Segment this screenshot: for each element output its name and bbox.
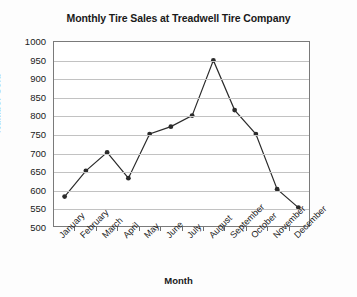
data-point: June: 770	[168, 124, 173, 129]
data-point: September: 815	[232, 108, 237, 113]
y-tick-label: 950	[0, 54, 46, 65]
gridline	[54, 172, 309, 173]
y-tick-label: 900	[0, 73, 46, 84]
gridline	[54, 191, 309, 192]
gridline	[54, 116, 309, 117]
y-tick-label: 550	[0, 203, 46, 214]
data-point: January: 580	[62, 194, 67, 199]
chart-title: Monthly Tire Sales at Treadwell Tire Com…	[0, 12, 357, 24]
data-point: April: 630	[126, 176, 131, 181]
line-series: January: 580February: 650March: 700April…	[54, 42, 309, 226]
y-tick-label: 750	[0, 129, 46, 140]
y-tick-label: 700	[0, 147, 46, 158]
x-axis-label: Month	[0, 275, 357, 286]
y-tick-label: 800	[0, 110, 46, 121]
y-tick-label: 650	[0, 166, 46, 177]
y-tick-label: 850	[0, 91, 46, 102]
gridline	[54, 61, 309, 62]
y-tick-label: 500	[0, 222, 46, 233]
gridline	[54, 135, 309, 136]
gridline	[54, 98, 309, 99]
chart-figure: Monthly Tire Sales at Treadwell Tire Com…	[0, 0, 357, 297]
y-tick-label: 1000	[0, 36, 46, 47]
gridline	[54, 154, 309, 155]
series-line	[65, 60, 299, 207]
plot-area: January: 580February: 650March: 700April…	[53, 41, 310, 227]
gridline	[54, 79, 309, 80]
y-tick-label: 600	[0, 184, 46, 195]
